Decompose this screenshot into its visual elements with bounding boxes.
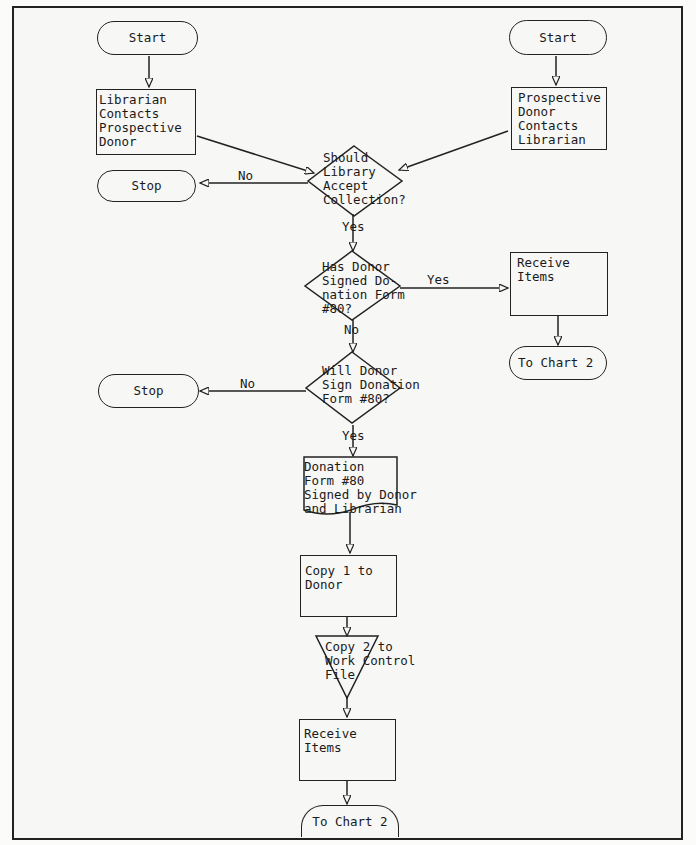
edge-label-accept-yes: Yes xyxy=(342,219,365,234)
process-librarian-contacts-donor: Librarian Contacts Prospective Donor xyxy=(96,89,196,155)
edge-label-will-no: No xyxy=(240,376,255,391)
edge-label-will-yes: Yes xyxy=(342,428,365,443)
edge-label-signed-yes: Yes xyxy=(427,272,450,287)
decision-should-accept: Should Library Accept Collection? xyxy=(323,151,406,207)
decision-will-sign: Will Donor Sign Donation Form #80? xyxy=(322,364,420,406)
decision-has-signed: Has Donor Signed Do- nation Form #80? xyxy=(322,260,405,316)
to-chart-2-terminal-right: To Chart 2 xyxy=(509,346,607,380)
process-donor-contacts-librarian: Prospective Donor Contacts Librarian xyxy=(511,87,607,150)
stop-terminal-1: Stop xyxy=(97,170,196,202)
document-form-signed: Donation Form #80 Signed by Donor and Li… xyxy=(304,460,417,516)
start-terminal-right: Start xyxy=(509,20,607,55)
file-copy-2-work-control: Copy 2 to Work Control File xyxy=(325,640,415,682)
process-receive-items-right: Receive Items xyxy=(510,252,608,316)
process-receive-items-bottom: Receive Items xyxy=(299,719,396,781)
to-chart-2-terminal-bottom: To Chart 2 xyxy=(301,805,399,837)
edge-label-accept-no: No xyxy=(238,168,253,183)
start-terminal-left: Start xyxy=(97,21,198,55)
edge-label-signed-no: No xyxy=(344,322,359,337)
process-copy-1-to-donor: Copy 1 to Donor xyxy=(300,555,397,617)
stop-terminal-2: Stop xyxy=(98,374,199,408)
